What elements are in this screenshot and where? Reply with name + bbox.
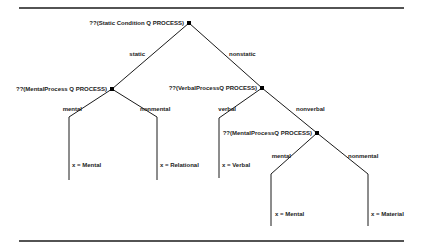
edge-label-nonverbal: nonverbal xyxy=(296,106,325,112)
node-verbal-dot xyxy=(260,86,264,90)
edge-label-mental1-mental: mental xyxy=(63,106,83,112)
edge-mental2-nonmental xyxy=(317,133,368,226)
node-mental2-label: ??(MentalProcessQ PROCESS) xyxy=(223,130,312,136)
node-root-label: ??(Static Condition Q PROCESS) xyxy=(89,20,184,26)
edge-static xyxy=(112,23,189,89)
edge-mental1-nonmental xyxy=(112,89,157,180)
edge-label-verbal: verbal xyxy=(218,106,236,112)
node-mental1-dot xyxy=(110,87,114,91)
node-mental2-dot xyxy=(315,131,319,135)
leaf-label-material: x = Material xyxy=(371,211,404,217)
edge-label-mental1-nonmental: nonmental xyxy=(140,106,171,112)
leaf-label-verbal: x = Verbal xyxy=(222,162,251,168)
edge-label-static: static xyxy=(129,51,145,57)
edge-label-nonstatic: nonstatic xyxy=(229,51,256,57)
decision-tree-canvas: ??(Static Condition Q PROCESS) ??(Mental… xyxy=(0,0,423,244)
edge-label-mental2-nonmental: nonmental xyxy=(348,153,379,159)
leaf-label-mental1: x = Mental xyxy=(72,162,102,168)
node-mental1-label: ??(MentalProcess Q PROCESS) xyxy=(16,86,107,92)
edge-label-mental2-mental: mental xyxy=(272,153,292,159)
node-root-dot xyxy=(187,21,191,25)
decision-tree-figure: ??(Static Condition Q PROCESS) ??(Mental… xyxy=(0,0,423,244)
leaf-label-mental2: x = Mental xyxy=(275,211,305,217)
leaf-label-relational: x = Relational xyxy=(160,162,199,168)
node-verbal-label: ??(VerbalProcessQ PROCESS) xyxy=(169,85,257,91)
